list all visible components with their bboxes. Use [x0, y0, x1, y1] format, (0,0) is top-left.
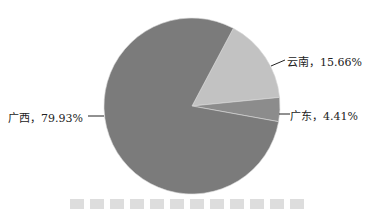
- leader-line-yunnan: [271, 60, 285, 66]
- label-guangxi: 广西，79.93%: [8, 109, 83, 125]
- pie-slices: [104, 18, 280, 194]
- label-guangdong: 广东，4.41%: [290, 107, 358, 123]
- pie-chart: [0, 0, 369, 209]
- figure-caption-cropped: [70, 199, 310, 209]
- label-yunnan: 云南，15.66%: [287, 53, 362, 69]
